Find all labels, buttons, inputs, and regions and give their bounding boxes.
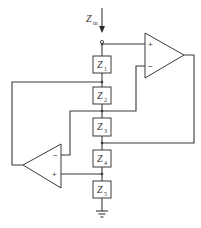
svg-text:Z: Z	[97, 184, 103, 195]
svg-text:Z: Z	[97, 153, 103, 164]
svg-text:4: 4	[104, 160, 107, 166]
svg-text:in: in	[93, 20, 98, 26]
node-dot	[101, 110, 104, 113]
input-arrow-icon	[99, 8, 105, 33]
impedance-z5: Z 5	[93, 181, 111, 198]
svg-text:2: 2	[104, 97, 107, 103]
impedance-z1: Z 1	[93, 56, 111, 73]
svg-text:+: +	[52, 170, 57, 179]
svg-text:Z: Z	[97, 59, 103, 70]
opamp-1: + −	[145, 33, 184, 78]
input-impedance-label: Z in	[86, 13, 98, 26]
node-dot	[101, 142, 104, 145]
svg-text:Z: Z	[86, 13, 92, 24]
node-dot	[101, 173, 104, 176]
svg-text:+: +	[148, 40, 153, 49]
impedance-z2: Z 2	[93, 87, 111, 104]
svg-text:1: 1	[104, 66, 107, 72]
impedance-z3: Z 3	[93, 118, 111, 136]
ground-icon	[96, 211, 108, 217]
svg-text:−: −	[53, 151, 58, 160]
node-dot	[101, 81, 104, 84]
gic-circuit-diagram: Z in Z 1 Z 2 Z 3 Z 4 Z	[0, 0, 201, 228]
svg-text:3: 3	[104, 128, 107, 134]
svg-text:Z: Z	[97, 121, 103, 132]
impedance-z4: Z 4	[93, 150, 111, 167]
svg-text:Z: Z	[97, 90, 103, 101]
svg-text:−: −	[148, 62, 153, 71]
svg-text:5: 5	[104, 191, 107, 197]
node-dot	[101, 43, 104, 46]
opamp-2: − +	[23, 144, 61, 188]
